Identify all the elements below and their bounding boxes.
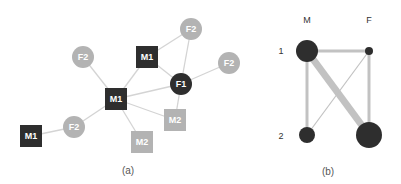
panel-b-edges <box>307 51 369 135</box>
network-node-f2-topleft: F2 <box>72 46 94 68</box>
node-label: F2 <box>69 122 80 132</box>
node-label: M2 <box>136 137 149 147</box>
panel-b-aggregate-graph: M F 1 2 (b) <box>278 15 382 177</box>
network-node-m2-right: M2 <box>164 109 186 131</box>
network-node-f2-top: F2 <box>180 18 202 40</box>
aggregate-node-f2 <box>356 122 382 148</box>
network-node-m1-top: M1 <box>136 46 158 68</box>
diagram-canvas: M1M1M1F1F2F2F2F2M2M2 (a) M F 1 2 (b) <box>0 0 401 184</box>
panel-a-edges <box>31 29 229 142</box>
network-node-f2-right: F2 <box>218 52 240 74</box>
network-node-m2-bottom: M2 <box>131 131 153 153</box>
row-label-2: 2 <box>278 131 283 141</box>
aggregate-node-m2 <box>299 127 315 143</box>
row-label-1: 1 <box>278 46 283 56</box>
node-label: M1 <box>25 131 38 141</box>
panel-a-network: M1M1M1F1F2F2F2F2M2M2 (a) <box>20 18 240 176</box>
panel-b-caption: (b) <box>322 166 334 177</box>
panel-a-nodes: M1M1M1F1F2F2F2F2M2M2 <box>20 18 240 153</box>
node-label: F2 <box>224 58 235 68</box>
panel-a-caption: (a) <box>122 165 134 176</box>
network-node-m1-left: M1 <box>20 125 42 147</box>
network-node-f1: F1 <box>170 73 192 95</box>
node-label: F1 <box>176 79 187 89</box>
aggregate-node-m1 <box>296 40 318 62</box>
node-label: M1 <box>110 94 123 104</box>
network-node-m1-center: M1 <box>105 88 127 110</box>
column-label-f: F <box>366 15 372 25</box>
column-label-m: M <box>303 15 311 25</box>
network-node-f2-bottomleft: F2 <box>63 116 85 138</box>
node-label: M1 <box>141 52 154 62</box>
node-label: M2 <box>169 115 182 125</box>
aggregate-node-f1 <box>365 47 373 55</box>
node-label: F2 <box>186 24 197 34</box>
node-label: F2 <box>78 52 89 62</box>
